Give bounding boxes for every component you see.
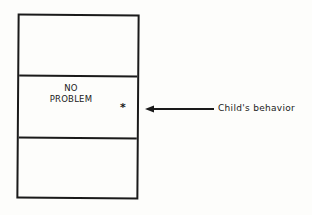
lower-divider (19, 137, 137, 140)
no-problem-line2: PROBLEM (36, 94, 106, 105)
no-problem-label: NO PROBLEM (36, 83, 106, 105)
left-arrow-icon (145, 104, 215, 114)
no-problem-line1: NO (36, 83, 106, 94)
arrow-caption: Child's behavior (218, 103, 295, 113)
asterisk-marker: * (120, 101, 126, 114)
upper-divider (19, 75, 137, 78)
